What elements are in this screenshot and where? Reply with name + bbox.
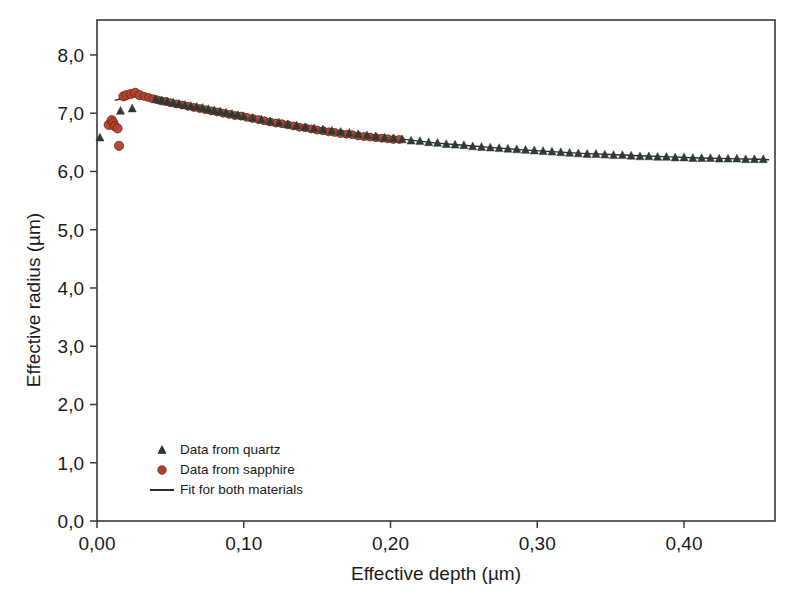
y-tick-label: 0,0 [58,511,84,532]
quartz-data-point [116,106,124,114]
y-tick-label: 8,0 [58,45,84,66]
y-tick-label: 6,0 [58,161,84,182]
plot-canvas: 0,000,100,200,300,40 0,01,02,03,04,05,06… [0,0,801,611]
y-axis-title: Effective radius (µm) [23,213,44,387]
x-tick-label: 0,20 [372,533,409,554]
y-tick-label: 5,0 [58,220,84,241]
sapphire-data-point [114,141,123,150]
x-tick-label: 0,00 [79,533,116,554]
y-axis-tick-labels: 0,01,02,03,04,05,06,07,08,0 [58,45,84,532]
x-axis-tick-labels: 0,000,100,200,300,40 [79,533,703,554]
y-tick-label: 3,0 [58,336,84,357]
x-tick-label: 0,40 [666,533,703,554]
chart-figure: 0,000,100,200,300,40 0,01,02,03,04,05,06… [0,0,801,611]
fit-line [115,96,770,160]
y-tick-label: 4,0 [58,278,84,299]
x-axis-tick-marks [97,521,684,528]
legend-circle-icon [158,466,166,474]
y-tick-label: 7,0 [58,103,84,124]
legend-label: Data from sapphire [180,462,295,477]
chart-legend: Data from quartzData from sapphireFit fo… [150,442,303,497]
x-tick-label: 0,30 [519,533,556,554]
legend-label: Fit for both materials [180,482,303,497]
x-tick-label: 0,10 [225,533,262,554]
fit-line-series [115,96,770,160]
y-tick-label: 2,0 [58,394,84,415]
x-axis-title: Effective depth (µm) [351,563,521,584]
legend-label: Data from quartz [180,442,281,457]
quartz-data-series [96,95,767,163]
sapphire-data-point [113,124,122,133]
quartz-data-point [128,104,136,112]
y-axis-tick-marks [90,55,97,521]
legend-triangle-icon [158,446,166,453]
y-tick-label: 1,0 [58,453,84,474]
